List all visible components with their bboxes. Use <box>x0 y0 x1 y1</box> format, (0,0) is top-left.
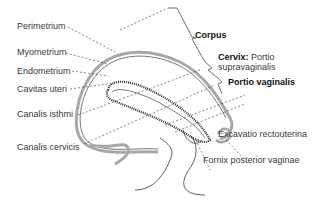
label-supravaginalis: supravaginalis <box>218 62 276 72</box>
region-bracket <box>168 8 222 94</box>
endometrium-cavity <box>107 82 210 142</box>
vagina-anterior-wall <box>135 138 172 190</box>
label-cervix: Cervix: Portio <box>218 52 275 62</box>
label-corpus: Corpus <box>195 30 227 40</box>
label-cavitas-uteri: Cavitas uteri <box>17 84 67 94</box>
label-perimetrium: Perimetrium <box>17 21 66 31</box>
vagina-posterior-wall <box>184 135 205 195</box>
label-portio-vaginalis: Portio vaginalis <box>228 77 295 87</box>
label-fornix-posterior-vaginae: Fornix posterior vaginae <box>203 155 300 165</box>
label-canalis-cervicis: Canalis cervicis <box>17 142 80 152</box>
label-excavatio-rectouterina: Excavatio rectouterina <box>218 129 307 139</box>
label-endometrium: Endometrium <box>17 66 71 76</box>
label-canalis-isthmi: Canalis isthmi <box>17 109 73 119</box>
label-cervix-rest: Portio <box>249 52 275 62</box>
label-cervix-bold: Cervix: <box>218 52 249 62</box>
label-myometrium: Myometrium <box>17 47 67 57</box>
